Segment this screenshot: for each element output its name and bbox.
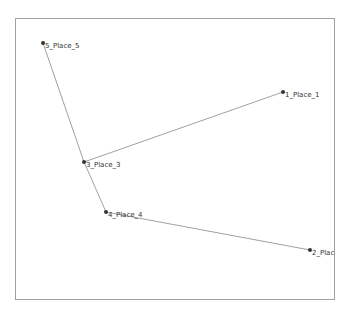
edge-3-4 [84, 162, 106, 212]
edge-3-1 [84, 92, 283, 162]
network-graph-canvas: 5_Place_51_Place_13_Place_34_Place_42_Pl… [0, 0, 350, 318]
node-label: 4_Place_4 [108, 211, 143, 219]
graph-nodes: 5_Place_51_Place_13_Place_34_Place_42_Pl… [41, 41, 343, 257]
node-label: 3_Place_3 [86, 161, 121, 169]
graph-node[interactable]: 1_Place_1 [281, 90, 320, 99]
node-label: 2_Place_ [312, 249, 343, 257]
graph-node[interactable]: 4_Place_4 [104, 210, 143, 219]
graph-node[interactable]: 3_Place_3 [82, 160, 121, 169]
graph-edges [43, 43, 310, 250]
graph-node[interactable]: 2_Place_ [308, 248, 343, 257]
node-label: 5_Place_5 [45, 42, 80, 50]
edge-5-3 [43, 43, 84, 162]
node-label: 1_Place_1 [285, 91, 320, 99]
graph-node[interactable]: 5_Place_5 [41, 41, 80, 50]
